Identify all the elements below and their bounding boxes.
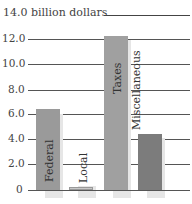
bar-chart: 14.0 billion dollars 12.0 10.0 8.0 6.0 4… — [0, 0, 192, 204]
bar-label-miscellaneous: Miscellaneous — [130, 50, 143, 130]
y-tick-10: 10.0 — [2, 57, 24, 69]
bar-federal: Federal — [36, 109, 60, 190]
y-tick-0: 0 — [16, 183, 38, 195]
y-tick-6: 6.0 — [8, 107, 30, 119]
y-tick-4: 4.0 — [8, 132, 30, 144]
y-tick-2: 2.0 — [8, 157, 30, 169]
y-tick-12: 12.0 — [2, 32, 24, 44]
gridline-14 — [104, 15, 190, 16]
bar-label-taxes: Taxes — [111, 63, 124, 94]
bar-taxes: Taxes — [104, 36, 128, 190]
y-tick-8: 8.0 — [8, 83, 30, 95]
bar-label-federal: Federal — [43, 140, 56, 182]
chart-title: 14.0 billion dollars — [3, 6, 107, 19]
bar-label-local: Local — [77, 153, 90, 183]
x-axis-baseline — [28, 190, 190, 191]
bar-miscellaneous: Miscellaneous — [138, 134, 162, 190]
